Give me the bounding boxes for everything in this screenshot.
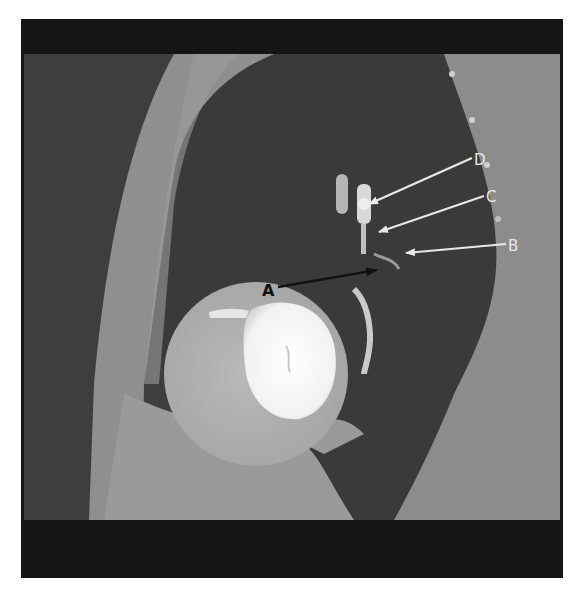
label-d: D	[474, 151, 486, 169]
label-a: A	[262, 281, 275, 300]
label-c: C	[486, 188, 496, 206]
ct-scan-image: D C B A	[24, 54, 560, 520]
label-b: B	[508, 237, 518, 255]
ct-scan-drawing: D C B A	[24, 54, 560, 520]
image-frame: D C B A	[21, 19, 563, 578]
